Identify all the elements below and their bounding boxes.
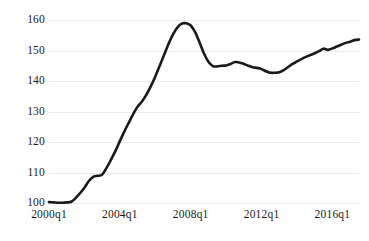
x-axis: 2000q12004q12008q12012q12016q1: [0, 0, 369, 241]
line-chart: 100110120130140150160 2000q12004q12008q1…: [0, 0, 369, 241]
x-tick-label: 2016q1: [297, 209, 367, 221]
x-tick-label: 2004q1: [85, 209, 155, 221]
x-tick-label: 2012q1: [227, 209, 297, 221]
x-tick-label: 2000q1: [14, 209, 84, 221]
x-tick-label: 2008q1: [156, 209, 226, 221]
